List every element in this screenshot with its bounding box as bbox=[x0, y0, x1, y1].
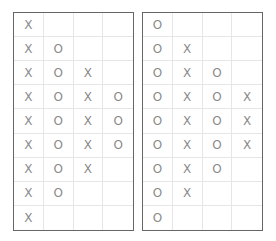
grid-cell[interactable]: X bbox=[14, 85, 44, 109]
grid-cell[interactable] bbox=[103, 158, 133, 182]
grid-cell[interactable]: O bbox=[203, 61, 233, 85]
grid-cell[interactable]: O bbox=[44, 85, 74, 109]
grid-cell[interactable] bbox=[74, 206, 104, 230]
grid-cell[interactable] bbox=[232, 206, 262, 230]
grid-cell[interactable]: X bbox=[173, 134, 203, 158]
grid-cell[interactable]: O bbox=[143, 37, 173, 61]
grid-cell[interactable]: X bbox=[173, 85, 203, 109]
grid-cell[interactable]: O bbox=[143, 109, 173, 133]
grid-cell[interactable]: X bbox=[173, 182, 203, 206]
grid-cell[interactable] bbox=[173, 13, 203, 37]
grid-cell[interactable]: X bbox=[14, 206, 44, 230]
grid-cell[interactable] bbox=[203, 182, 233, 206]
grid-cell[interactable] bbox=[232, 61, 262, 85]
grid-cell[interactable]: O bbox=[143, 206, 173, 230]
grid-cell[interactable] bbox=[44, 13, 74, 37]
grid-cell[interactable]: X bbox=[232, 134, 262, 158]
grid-cell[interactable]: O bbox=[44, 61, 74, 85]
grid-cell[interactable]: O bbox=[143, 13, 173, 37]
grid-cell[interactable]: X bbox=[74, 85, 104, 109]
grid-cell[interactable]: O bbox=[203, 109, 233, 133]
grid-cell[interactable]: X bbox=[74, 134, 104, 158]
grid-cell[interactable] bbox=[103, 61, 133, 85]
grid-cell[interactable]: X bbox=[14, 182, 44, 206]
grid-cell[interactable] bbox=[103, 206, 133, 230]
grid-cell[interactable] bbox=[74, 37, 104, 61]
grid-cell[interactable]: X bbox=[14, 109, 44, 133]
grid-cell[interactable] bbox=[103, 37, 133, 61]
grid-cell[interactable] bbox=[74, 13, 104, 37]
grid-cell[interactable]: X bbox=[74, 109, 104, 133]
grid-cell[interactable]: X bbox=[232, 109, 262, 133]
grid-cell[interactable] bbox=[232, 37, 262, 61]
grid-cell[interactable] bbox=[203, 37, 233, 61]
grid-cell[interactable]: X bbox=[173, 61, 203, 85]
grid-cell[interactable]: O bbox=[203, 134, 233, 158]
grid-cell[interactable]: X bbox=[74, 158, 104, 182]
left-board: XXOXOXXOXOXOXOXOXOXOXXOX bbox=[13, 12, 134, 231]
grid-cell[interactable]: X bbox=[173, 37, 203, 61]
grid-cell[interactable]: X bbox=[173, 158, 203, 182]
grid-cell[interactable]: O bbox=[103, 85, 133, 109]
grid-cell[interactable] bbox=[203, 206, 233, 230]
grid-cell[interactable]: X bbox=[232, 85, 262, 109]
grid-cell[interactable] bbox=[74, 182, 104, 206]
grid-cell[interactable]: O bbox=[143, 85, 173, 109]
grid-cell[interactable] bbox=[232, 13, 262, 37]
grid-cell[interactable] bbox=[232, 182, 262, 206]
grid-cell[interactable] bbox=[173, 206, 203, 230]
grid-cell[interactable]: O bbox=[143, 134, 173, 158]
grid-cell[interactable]: O bbox=[44, 158, 74, 182]
grid-cell[interactable] bbox=[232, 158, 262, 182]
grid-cell[interactable]: X bbox=[14, 158, 44, 182]
grid-cell[interactable]: O bbox=[103, 109, 133, 133]
grid-cell[interactable]: O bbox=[44, 182, 74, 206]
grid-cell[interactable]: O bbox=[143, 61, 173, 85]
grid-cell[interactable]: O bbox=[143, 158, 173, 182]
grid-cell[interactable]: O bbox=[103, 134, 133, 158]
grid-cell[interactable]: X bbox=[14, 134, 44, 158]
grid-cell[interactable]: O bbox=[203, 85, 233, 109]
grid-cell[interactable]: O bbox=[44, 109, 74, 133]
grid-cell[interactable]: O bbox=[44, 134, 74, 158]
grid-cell[interactable] bbox=[44, 206, 74, 230]
grid-cell[interactable] bbox=[103, 182, 133, 206]
grid-cell[interactable]: X bbox=[74, 61, 104, 85]
grid-cell[interactable]: X bbox=[14, 37, 44, 61]
right-board: OOXOXOOXOXOXOXOXOXOXOOXO bbox=[142, 12, 263, 231]
grid-cell[interactable]: O bbox=[143, 182, 173, 206]
grid-cell[interactable]: O bbox=[203, 158, 233, 182]
grid-cell[interactable] bbox=[103, 13, 133, 37]
grid-cell[interactable]: X bbox=[14, 13, 44, 37]
grid-cell[interactable] bbox=[203, 13, 233, 37]
grid-cell[interactable]: X bbox=[14, 61, 44, 85]
grid-cell[interactable]: X bbox=[173, 109, 203, 133]
grid-cell[interactable]: O bbox=[44, 37, 74, 61]
